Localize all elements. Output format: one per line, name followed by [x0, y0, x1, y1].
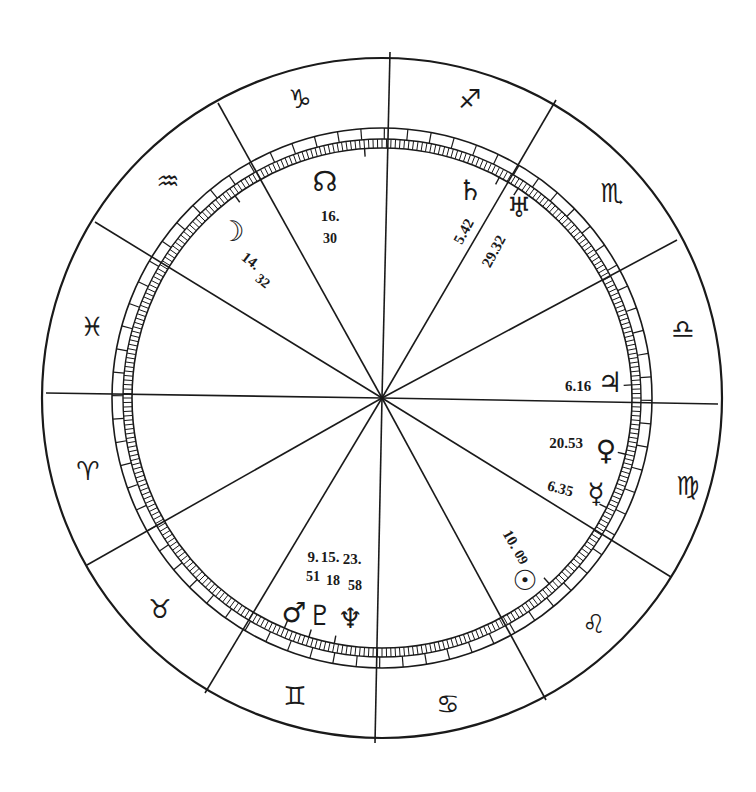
- house-cusp-line-9: [87, 398, 382, 565]
- moon-group: ☽︎14.32: [219, 215, 272, 291]
- house-cusp-line-1: [382, 52, 390, 398]
- mercury-degree-label: 6.35: [546, 477, 575, 499]
- pluto-minute-label: 18: [326, 573, 340, 588]
- planet-glyphs: ☊︎16.30☽︎14.32♄︎5.42♅︎29.32♃︎6.16♀︎20.53…: [219, 165, 622, 635]
- mars-minute-label: 51: [306, 569, 320, 584]
- capricorn-icon: ♑︎: [288, 84, 311, 114]
- pluto-icon: ♇︎: [307, 599, 332, 632]
- gemini-icon: ♊︎: [283, 681, 306, 711]
- saturn-tick: [496, 177, 500, 184]
- sun-tick: [544, 578, 549, 584]
- sagittarius-icon: ♐︎: [458, 84, 481, 114]
- cancer-icon: ♋︎: [436, 689, 459, 719]
- moon-tick: [235, 196, 240, 202]
- mercury-icon: ☿︎: [587, 477, 604, 510]
- venus-degree-label: 20.53: [549, 435, 583, 451]
- moon-minute-label: 32: [253, 271, 273, 291]
- neptune-degree-label: 23.: [343, 551, 362, 567]
- north-node-group: ☊︎16.30: [313, 165, 340, 246]
- taurus-icon: ♉︎: [148, 594, 171, 624]
- north-node-tick: [365, 149, 366, 157]
- north-node-minute-label: 30: [323, 231, 337, 246]
- venus-icon: ♀︎: [596, 434, 617, 467]
- sun-degree-label: 10.: [500, 527, 523, 551]
- saturn-icon: ♄︎: [457, 174, 482, 207]
- house-cusp-line-10: [46, 393, 382, 398]
- neptune-minute-label: 58: [348, 578, 362, 593]
- house-cusp-line-3: [382, 240, 677, 398]
- jupiter-degree-label: 6.16: [565, 378, 592, 394]
- pluto-degree-label: 15.: [321, 549, 340, 565]
- neptune-group: ♆︎23.58: [337, 551, 362, 635]
- mars-icon: ♂︎: [281, 596, 306, 629]
- mars-degree-label: 9.: [307, 549, 319, 565]
- moon-icon: ☽︎: [219, 215, 244, 248]
- virgo-icon: ♍︎: [676, 471, 699, 501]
- moon-degree-label: 14.: [239, 249, 264, 273]
- north-node-degree-label: 16.: [321, 208, 340, 224]
- uranus-group: ♅︎29.32: [479, 191, 532, 270]
- jupiter-group: ♃︎6.16: [565, 366, 623, 399]
- uranus-degree-label: 29.32: [479, 233, 509, 270]
- venus-group: ♀︎20.53: [549, 434, 616, 467]
- aquarius-icon: ♒︎: [156, 166, 179, 196]
- venus-tick: [618, 452, 626, 454]
- house-cusp-line-4: [382, 398, 718, 404]
- north-node-icon: ☊︎: [313, 165, 338, 198]
- pisces-icon: ♓︎: [80, 312, 103, 342]
- scorpio-icon: ♏︎: [600, 178, 623, 208]
- aries-icon: ♈︎: [76, 456, 99, 486]
- jupiter-icon: ♃︎: [597, 366, 622, 399]
- leo-icon: ♌︎: [582, 609, 605, 639]
- astrology-chart-wheel: ♑︎♐︎♏︎♎︎♍︎♌︎♋︎♊︎♉︎♈︎♓︎♒︎ ☊︎16.30☽︎14.32♄…: [0, 0, 756, 792]
- house-cusp-line-7: [375, 398, 382, 743]
- sun-group: ☉︎10.09: [500, 527, 538, 597]
- house-cusp-line-12: [218, 103, 382, 398]
- uranus-icon: ♅︎: [506, 191, 531, 224]
- libra-icon: ♎︎: [671, 314, 694, 344]
- house-cusp-line-2: [382, 100, 556, 398]
- saturn-group: ♄︎5.42: [450, 174, 482, 247]
- neptune-icon: ♆︎: [337, 602, 362, 635]
- neptune-tick: [334, 636, 336, 644]
- sun-icon: ☉︎: [512, 564, 537, 597]
